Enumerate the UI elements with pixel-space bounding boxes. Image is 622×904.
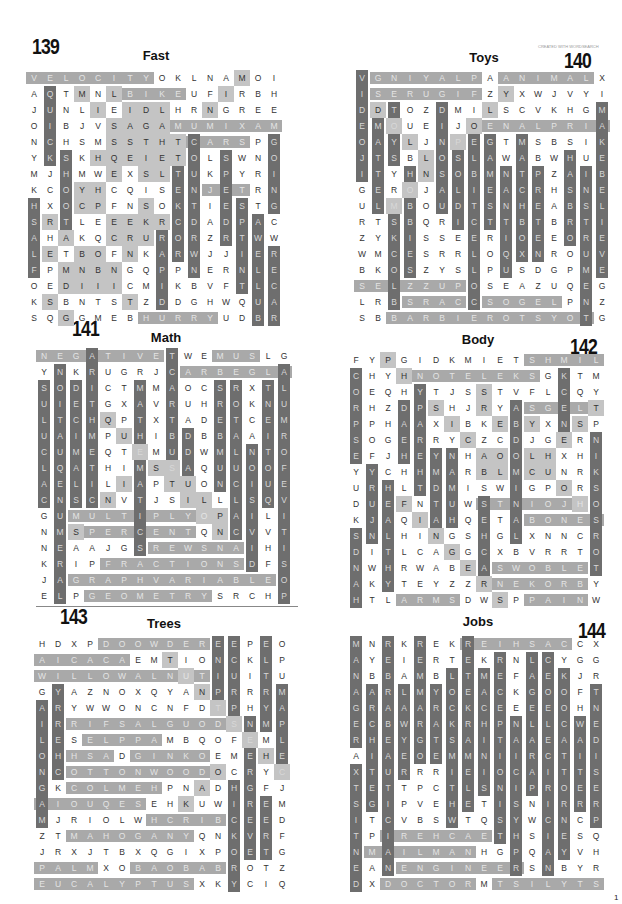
grid-letter[interactable]: O [562, 246, 578, 262]
grid-letter[interactable]: V [132, 348, 148, 364]
grid-letter[interactable]: A [396, 668, 412, 684]
grid-letter[interactable]: O [58, 182, 74, 198]
grid-letter[interactable]: V [396, 812, 412, 828]
grid-letter[interactable]: I [202, 198, 218, 214]
grid-letter[interactable]: O [492, 764, 508, 780]
grid-letter[interactable]: J [100, 540, 116, 556]
grid-letter[interactable]: K [210, 876, 226, 892]
grid-letter[interactable]: P [90, 198, 106, 214]
grid-letter[interactable]: P [546, 118, 562, 134]
grid-letter[interactable]: T [444, 780, 460, 796]
grid-letter[interactable]: A [50, 860, 66, 876]
grid-letter[interactable]: H [396, 384, 412, 400]
grid-letter[interactable]: W [444, 812, 460, 828]
grid-letter[interactable]: I [68, 428, 84, 444]
grid-letter[interactable]: P [492, 716, 508, 732]
grid-letter[interactable]: I [508, 748, 524, 764]
grid-letter[interactable]: J [418, 134, 434, 150]
grid-letter[interactable]: H [138, 310, 154, 326]
grid-letter[interactable]: Y [578, 86, 594, 102]
grid-letter[interactable]: J [74, 118, 90, 134]
grid-letter[interactable]: T [498, 134, 514, 150]
grid-letter[interactable]: P [364, 416, 380, 432]
grid-letter[interactable]: I [50, 668, 66, 684]
grid-letter[interactable]: M [66, 828, 82, 844]
grid-letter[interactable]: L [492, 464, 508, 480]
grid-letter[interactable]: N [476, 748, 492, 764]
grid-letter[interactable]: A [562, 70, 578, 86]
grid-letter[interactable]: L [418, 150, 434, 166]
grid-letter[interactable]: O [114, 700, 130, 716]
grid-letter[interactable]: L [530, 118, 546, 134]
grid-letter[interactable]: K [556, 368, 572, 384]
grid-letter[interactable]: Y [258, 700, 274, 716]
grid-letter[interactable]: J [42, 166, 58, 182]
grid-letter[interactable]: S [36, 380, 52, 396]
grid-letter[interactable]: Y [524, 416, 540, 432]
grid-letter[interactable]: P [364, 828, 380, 844]
grid-letter[interactable]: T [428, 496, 444, 512]
grid-letter[interactable]: C [196, 380, 212, 396]
grid-letter[interactable]: T [116, 380, 132, 396]
grid-letter[interactable]: L [114, 812, 130, 828]
grid-letter[interactable]: Y [556, 652, 572, 668]
grid-letter[interactable]: O [348, 384, 364, 400]
grid-letter[interactable]: R [84, 364, 100, 380]
grid-letter[interactable]: I [52, 396, 68, 412]
grid-letter[interactable]: T [482, 214, 498, 230]
grid-letter[interactable]: A [276, 364, 292, 380]
grid-letter[interactable]: G [460, 544, 476, 560]
letter-grid[interactable]: NEGATIVETWEMUSLGYNKRUGRJCARBEGLASODICTMM… [36, 348, 292, 604]
grid-letter[interactable]: N [412, 860, 428, 876]
grid-letter[interactable]: P [116, 412, 132, 428]
grid-letter[interactable]: G [266, 198, 282, 214]
grid-letter[interactable]: O [114, 860, 130, 876]
grid-letter[interactable]: W [588, 592, 604, 608]
grid-letter[interactable]: D [450, 198, 466, 214]
grid-letter[interactable]: B [556, 860, 572, 876]
grid-letter[interactable]: A [154, 246, 170, 262]
grid-letter[interactable]: B [540, 560, 556, 576]
grid-letter[interactable]: T [164, 412, 180, 428]
grid-letter[interactable]: A [274, 700, 290, 716]
grid-letter[interactable]: O [466, 118, 482, 134]
grid-letter[interactable]: L [68, 476, 84, 492]
grid-letter[interactable]: M [476, 668, 492, 684]
grid-letter[interactable]: S [228, 556, 244, 572]
grid-letter[interactable]: C [42, 182, 58, 198]
grid-letter[interactable]: T [588, 560, 604, 576]
grid-letter[interactable]: P [530, 166, 546, 182]
grid-letter[interactable]: A [100, 572, 116, 588]
grid-letter[interactable]: P [210, 684, 226, 700]
grid-letter[interactable]: A [58, 230, 74, 246]
grid-letter[interactable]: U [50, 876, 66, 892]
grid-letter[interactable]: S [82, 748, 98, 764]
grid-letter[interactable]: G [428, 860, 444, 876]
grid-letter[interactable]: A [130, 668, 146, 684]
grid-letter[interactable]: X [364, 876, 380, 892]
grid-letter[interactable]: D [58, 278, 74, 294]
grid-letter[interactable]: O [418, 198, 434, 214]
grid-letter[interactable]: E [412, 828, 428, 844]
grid-letter[interactable]: V [412, 796, 428, 812]
grid-letter[interactable]: S [354, 278, 370, 294]
grid-letter[interactable]: G [380, 432, 396, 448]
grid-letter[interactable]: O [90, 246, 106, 262]
grid-letter[interactable]: R [266, 246, 282, 262]
grid-letter[interactable]: I [476, 732, 492, 748]
grid-letter[interactable]: E [354, 118, 370, 134]
grid-letter[interactable]: O [114, 636, 130, 652]
grid-letter[interactable]: C [572, 528, 588, 544]
grid-letter[interactable]: N [460, 860, 476, 876]
grid-letter[interactable]: D [218, 214, 234, 230]
grid-letter[interactable]: X [116, 396, 132, 412]
grid-letter[interactable]: O [498, 310, 514, 326]
grid-letter[interactable]: H [508, 828, 524, 844]
grid-letter[interactable]: R [66, 716, 82, 732]
grid-letter[interactable]: E [148, 524, 164, 540]
grid-letter[interactable]: X [122, 166, 138, 182]
grid-letter[interactable]: E [556, 828, 572, 844]
grid-letter[interactable]: S [434, 230, 450, 246]
grid-letter[interactable]: R [194, 636, 210, 652]
grid-letter[interactable]: I [82, 812, 98, 828]
